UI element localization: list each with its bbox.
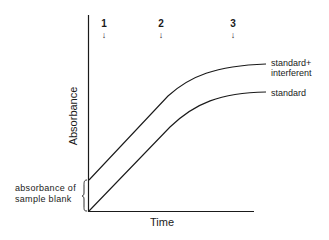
marker-2-label: 2 [155,18,167,29]
blank-label-line1: absorbance of [15,183,76,193]
curve-label-standard: standard [271,88,306,98]
marker-3-label: 3 [227,18,239,29]
marker-2-arrow-icon: ↓ [155,30,167,40]
marker-1-arrow-icon: ↓ [98,30,110,40]
marker-1-label: 1 [98,18,110,29]
blank-brace-icon [82,180,87,211]
y-axis-title: Absorbance [67,87,79,146]
curve-label-standard-plus-line1: standard+ [271,58,311,68]
curve-standard-plus-interferent [89,64,266,180]
x-axis-title: Time [150,216,174,228]
curve-label-standard-plus-line2: interferent [271,68,312,78]
blank-label-line2: sample blank [15,194,72,204]
marker-3-arrow-icon: ↓ [227,30,239,40]
